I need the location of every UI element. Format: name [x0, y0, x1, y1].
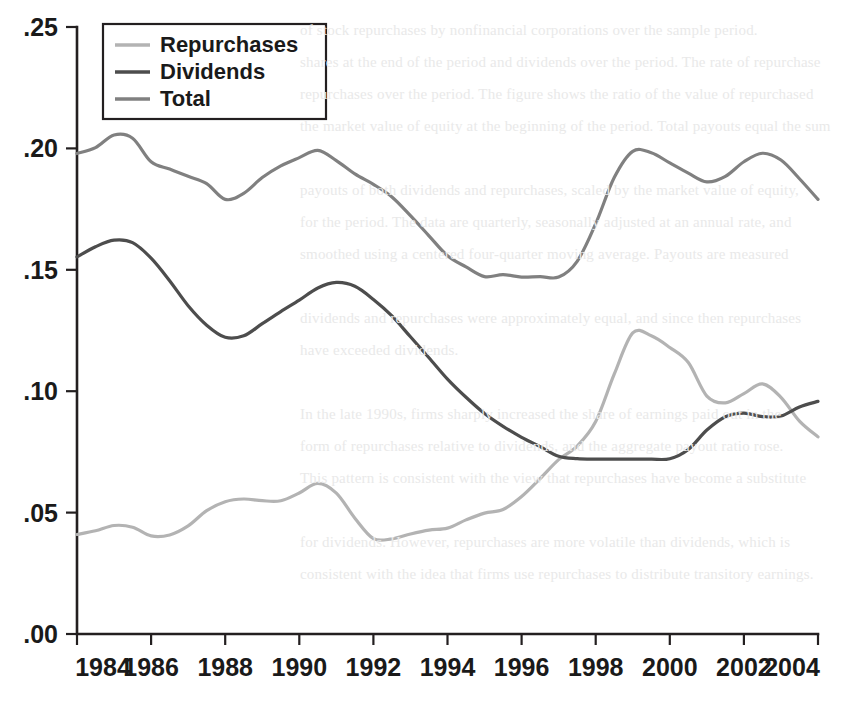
series-line-dividends: [77, 240, 818, 460]
series-line-total: [77, 134, 818, 278]
x-tick-label: 1992: [346, 653, 402, 681]
legend-label-total: Total: [160, 86, 211, 111]
x-tick-label: 1994: [420, 653, 476, 681]
y-tick-label: .10: [23, 377, 58, 405]
x-tick-label: 1998: [568, 653, 624, 681]
x-tick-label: 1990: [271, 653, 327, 681]
x-tick-label: 2000: [642, 653, 698, 681]
x-tick-label: 1986: [123, 653, 179, 681]
legend-label-repurchases: Repurchases: [160, 32, 298, 57]
series-line-repurchases: [77, 330, 818, 540]
legend-label-dividends: Dividends: [160, 59, 265, 84]
x-tick-label: 1996: [494, 653, 550, 681]
chart-legend: RepurchasesDividendsTotal: [103, 24, 326, 119]
x-axis-tick-labels: 1984198619881990199219941996199820002002…: [75, 653, 820, 681]
y-tick-label: .15: [23, 256, 58, 284]
x-tick-label: 2004: [764, 653, 820, 681]
y-tick-label: .00: [23, 620, 58, 648]
data-series-group: [77, 134, 818, 540]
x-tick-label: 1988: [197, 653, 253, 681]
y-tick-label: .25: [23, 13, 58, 41]
x-tick-marks: [77, 634, 818, 645]
y-tick-label: .05: [23, 499, 58, 527]
payout-ratio-line-chart: .00.05.10.15.20.25 198419861988199019921…: [0, 0, 861, 701]
y-tick-marks: [66, 27, 77, 634]
figure-container: of stock repurchases by nonfinancial cor…: [0, 0, 861, 701]
y-axis-tick-labels: .00.05.10.15.20.25: [23, 13, 58, 648]
y-tick-label: .20: [23, 134, 58, 162]
